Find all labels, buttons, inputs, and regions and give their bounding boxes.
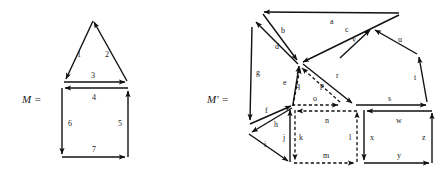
face-square-M: 4 5 6 7 <box>62 88 128 157</box>
edge-label-3: 3 <box>91 71 95 80</box>
edge-label-w: w <box>396 116 402 125</box>
edge-c-path <box>303 15 399 62</box>
figure-canvas: M = 1 2 3 4 5 6 7 <box>0 0 447 174</box>
edge-label-o: o <box>313 94 317 103</box>
edge-label-6: 6 <box>68 119 72 128</box>
edge-label-2: 2 <box>105 50 109 59</box>
edge-label-c: c <box>345 25 349 34</box>
edge-b-path <box>263 14 297 60</box>
edge-label-j: j <box>282 133 285 142</box>
edge-label-v: v <box>352 35 356 44</box>
edge-label-d: d <box>275 42 279 51</box>
label-M-prime: M' = <box>206 93 229 105</box>
edge-2-path <box>94 22 127 81</box>
edge-label-i: i <box>264 140 267 149</box>
edge-label-u: u <box>398 35 402 44</box>
edge-label-e: e <box>283 78 287 87</box>
edge-label-r: r <box>336 71 339 80</box>
edge-label-b: b <box>281 26 285 35</box>
edge-label-q: q <box>296 81 300 90</box>
edge-g-path <box>250 27 252 120</box>
label-M: M = <box>21 93 41 105</box>
edge-label-l: l <box>349 133 352 142</box>
edge-label-7: 7 <box>92 145 96 154</box>
face-triangle-M: 1 2 3 <box>64 21 127 82</box>
edge-label-k: k <box>299 133 303 142</box>
edge-label-1: 1 <box>77 50 81 59</box>
edge-label-n: n <box>325 116 329 125</box>
edge-r-path <box>303 64 352 103</box>
edge-t-path <box>419 57 427 102</box>
complex-M-prime: M' = a b c d g f e q p o <box>206 12 432 163</box>
edge-label-m: m <box>323 151 330 160</box>
edge-label-t: t <box>414 73 417 82</box>
edge-u-path <box>375 30 417 54</box>
edge-label-4: 4 <box>92 93 96 102</box>
edge-label-f: f <box>265 106 268 115</box>
edge-label-5: 5 <box>118 119 122 128</box>
edge-label-a: a <box>330 17 334 26</box>
diagram-svg: M = 1 2 3 4 5 6 7 <box>0 0 447 174</box>
edge-label-z: z <box>422 133 426 142</box>
edge-label-s: s <box>388 94 391 103</box>
edge-label-p: p <box>320 81 324 90</box>
edge-a-path <box>264 12 399 13</box>
edge-label-x: x <box>370 133 374 142</box>
edge-label-y: y <box>397 151 401 160</box>
edge-label-h: h <box>274 120 278 129</box>
edge-label-g: g <box>256 68 260 77</box>
complex-M: M = 1 2 3 4 5 6 7 <box>21 21 128 157</box>
